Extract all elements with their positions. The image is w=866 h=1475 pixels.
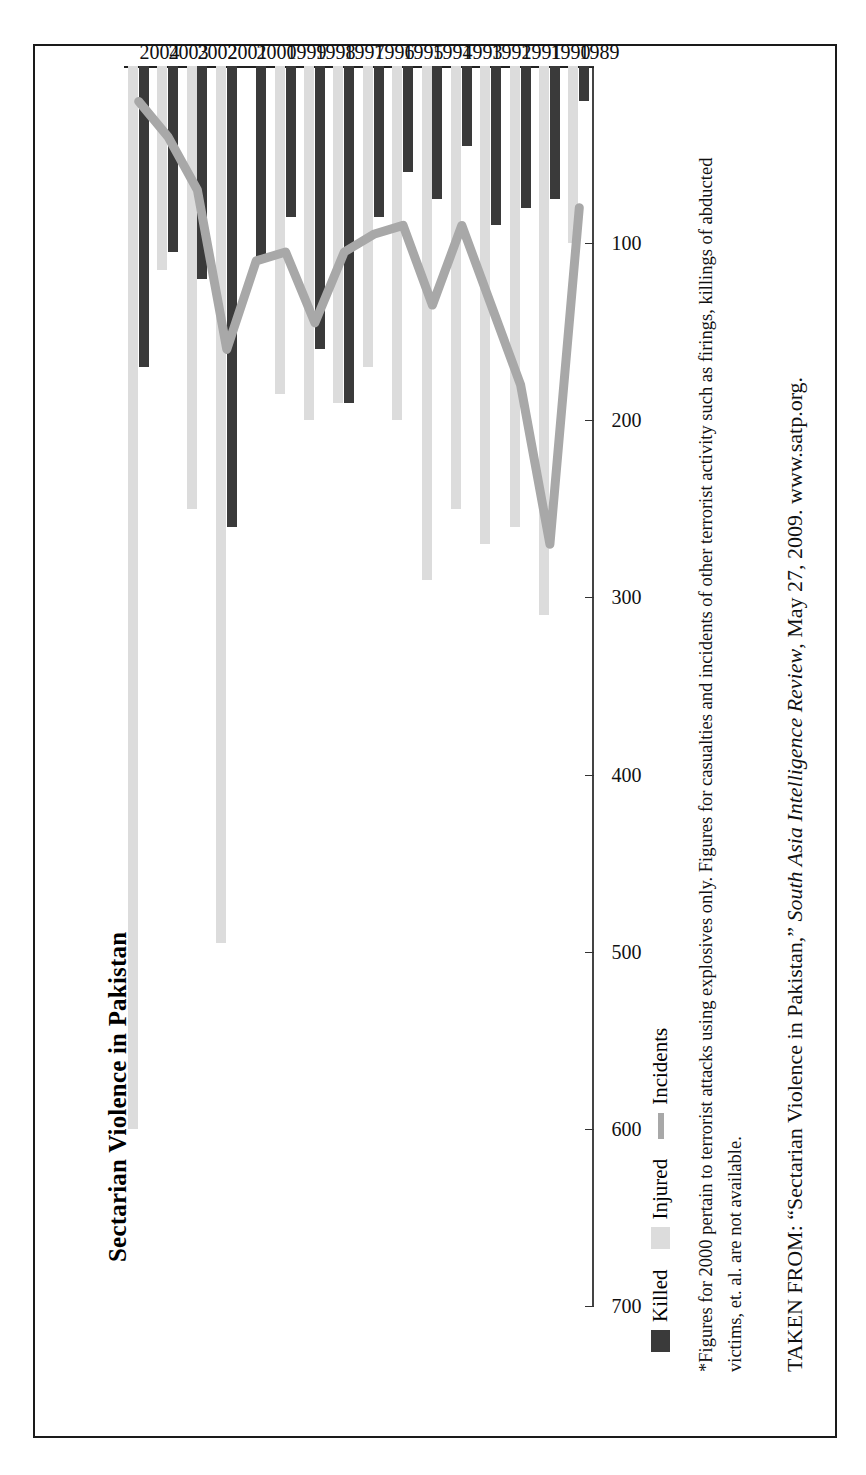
value-tick-label: 400 bbox=[592, 763, 662, 786]
legend-item-injured: Injured bbox=[648, 1159, 673, 1250]
value-tick-label: 100 bbox=[592, 232, 662, 255]
legend-label-killed: Killed bbox=[648, 1270, 673, 1323]
category-label-2004: 2004 bbox=[139, 41, 179, 64]
source-prefix: TAKEN FROM: “Sectarian Violence in Pakis… bbox=[782, 922, 807, 1372]
value-tick-label: 200 bbox=[592, 409, 662, 432]
legend-label-injured: Injured bbox=[648, 1159, 673, 1220]
legend-item-incidents: Incidents bbox=[648, 1028, 673, 1139]
chart-plot-area: 100200300400500600700 198919901991199219… bbox=[124, 66, 594, 1306]
figure-page: Sectarian Violence in Pakistan 100200300… bbox=[0, 0, 866, 1475]
legend-item-killed: Killed bbox=[648, 1270, 673, 1353]
plot-inner: 100200300400500600700 198919901991199219… bbox=[124, 66, 594, 1306]
source-suffix: , May 27, 2009. www.satp.org. bbox=[782, 377, 807, 649]
chart-legend: Killed Injured Incidents bbox=[648, 1028, 673, 1352]
chart-footnote: *Figures for 2000 pertain to terrorist a… bbox=[692, 142, 749, 1372]
legend-label-incidents: Incidents bbox=[648, 1028, 673, 1105]
value-tick-label: 500 bbox=[592, 940, 662, 963]
legend-swatch-incidents-icon bbox=[658, 1113, 664, 1139]
legend-swatch-injured-icon bbox=[651, 1228, 670, 1250]
legend-swatch-killed-icon bbox=[651, 1330, 670, 1352]
value-tick-label: 300 bbox=[592, 586, 662, 609]
source-publication: South Asia Intelligence Review bbox=[782, 649, 807, 922]
incidents-line bbox=[124, 66, 594, 1306]
source-citation: TAKEN FROM: “Sectarian Violence in Pakis… bbox=[782, 142, 808, 1372]
